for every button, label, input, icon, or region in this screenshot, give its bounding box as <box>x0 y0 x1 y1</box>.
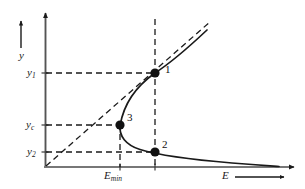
data-point-2 <box>150 147 159 156</box>
figure-canvas <box>0 0 305 189</box>
point-label-3: 3 <box>127 112 133 123</box>
point-label-1: 1 <box>165 64 171 75</box>
y-tick-label-y1: y1 <box>27 67 36 78</box>
x-tick-label-emin: Emin <box>104 170 122 181</box>
y-axis-label: y <box>19 50 24 61</box>
point-label-2: 2 <box>162 139 168 150</box>
x-axis-label: E <box>222 170 229 181</box>
specific-energy-figure: y y1 yc y2 Emin E 1 2 3 <box>0 0 305 189</box>
data-point-1 <box>150 68 159 77</box>
yc-subscript: c <box>31 123 34 132</box>
y1-subscript: 1 <box>32 71 36 80</box>
y-tick-label-yc: yc <box>26 119 34 130</box>
emin-base: E <box>104 169 111 181</box>
specific-energy-curve <box>120 30 279 167</box>
data-point-3 <box>115 120 124 129</box>
emin-subscript: min <box>111 174 122 183</box>
y-tick-label-y2: y2 <box>27 146 36 157</box>
y2-subscript: 2 <box>32 150 36 159</box>
